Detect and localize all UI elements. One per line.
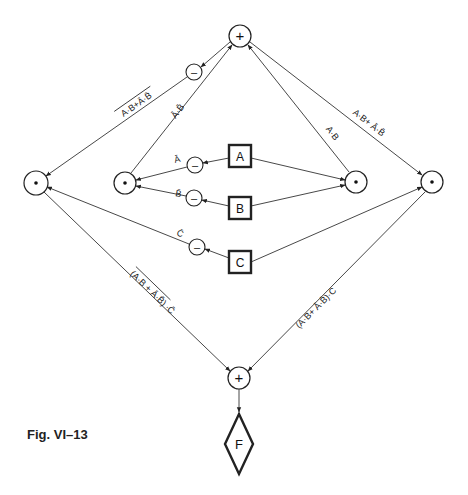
input-node-c: C xyxy=(229,251,251,273)
not-symbol: – xyxy=(191,192,198,204)
or-node-top: + xyxy=(229,25,251,47)
label-not-b: B̄ xyxy=(175,188,183,199)
label-top-left-inner: Ā·B̄ xyxy=(169,102,186,120)
not-node-c: – xyxy=(189,239,205,255)
edge-not-a-to-inner-left-and xyxy=(136,167,187,180)
label-bottom-left: (A·B + Ā·B̄) ·C̄ xyxy=(128,267,179,317)
edge-b-to-inner-right-and xyxy=(251,185,345,206)
not-symbol: – xyxy=(191,66,198,78)
and-dot-icon xyxy=(430,180,434,184)
label-top-left-outer: A·B+Ā·B̄ xyxy=(114,86,157,121)
not-node-a: – xyxy=(187,157,203,173)
and-dot-icon xyxy=(34,181,38,185)
not-symbol: – xyxy=(192,159,199,171)
input-c-label: C xyxy=(236,256,245,270)
not-node-b: – xyxy=(186,190,202,206)
edge-not-to-far-left-and xyxy=(46,77,187,176)
label-not-a: Ā xyxy=(173,154,181,165)
or-node-bottom: + xyxy=(228,367,250,389)
label-top-right-inner: A·B xyxy=(324,124,341,142)
and-dot-icon xyxy=(123,181,127,185)
not-symbol: – xyxy=(194,241,201,253)
svg-text:(A·B+ Ā·B̄)·C: (A·B+ Ā·B̄)·C xyxy=(294,285,339,330)
and-node-inner-left xyxy=(114,172,136,194)
svg-text:A·B: A·B xyxy=(324,124,341,142)
label-not-c: C̄ xyxy=(175,228,185,240)
svg-text:·C̄: ·C̄ xyxy=(163,302,177,316)
input-a-label: A xyxy=(236,150,244,164)
and-node-far-left xyxy=(24,171,48,195)
label-bottom-right: (A·B+ Ā·B̄)·C xyxy=(294,285,339,330)
edge-a-to-inner-right-and xyxy=(251,158,345,180)
edge-b-to-not-b xyxy=(202,200,229,206)
input-b-label: B xyxy=(236,202,244,216)
svg-text:(A·B + Ā·B̄): (A·B + Ā·B̄) xyxy=(128,269,168,308)
not-node-top-left: – xyxy=(186,64,202,80)
output-f-label: F xyxy=(235,437,243,452)
edge-inner-right-and-to-top-or xyxy=(248,45,349,172)
or-symbol: + xyxy=(235,369,244,386)
logic-flow-diagram: + – – xyxy=(0,0,468,495)
and-node-inner-right xyxy=(345,171,367,193)
edge-top-or-to-not xyxy=(201,42,230,67)
edge-a-to-not-a xyxy=(203,158,229,163)
svg-text:Ā·B̄: Ā·B̄ xyxy=(169,102,186,120)
and-dot-icon xyxy=(354,180,358,184)
output-node-f: F xyxy=(225,414,253,474)
edge-c-to-not-c xyxy=(205,249,229,258)
input-node-a: A xyxy=(229,145,251,167)
input-node-b: B xyxy=(229,197,251,219)
edge-far-right-and-to-bottom-or xyxy=(248,192,425,371)
edge-c-to-far-right-and xyxy=(251,187,422,262)
or-symbol: + xyxy=(236,27,245,44)
figure-caption: Fig. VI–13 xyxy=(27,427,88,442)
and-node-far-right xyxy=(421,171,443,193)
